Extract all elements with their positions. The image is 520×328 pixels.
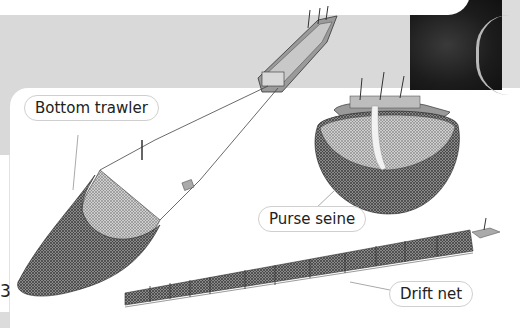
page-number: 3 [0, 281, 11, 301]
label-purse-seine: Purse seine [258, 206, 366, 232]
drift-boat-icon [472, 218, 500, 238]
label-bottom-trawler: Bottom trawler [24, 95, 159, 121]
label-drift-net: Drift net [389, 281, 473, 307]
trawler-ship-icon [258, 6, 337, 92]
